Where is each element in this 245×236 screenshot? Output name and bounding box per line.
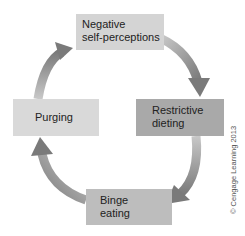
- arrow-purging-to-negative: [38, 42, 73, 99]
- node-label-line: Restrictive: [152, 104, 224, 117]
- arrow-binge-to-purging: [31, 137, 86, 200]
- copyright-credit: © Cengage Learning 2013: [229, 126, 238, 214]
- node-label-line: Binge: [100, 194, 172, 207]
- node-label-line: Negative: [82, 18, 164, 31]
- node-label-line: dieting: [152, 117, 224, 130]
- arrow-negative-to-restrictive: [160, 38, 210, 97]
- node-label-line: self-perceptions: [82, 31, 164, 44]
- node-restrictive-dieting: Restrictive dieting: [136, 99, 224, 136]
- node-negative-self-perceptions: Negative self-perceptions: [76, 14, 164, 50]
- node-label-line: eating: [100, 207, 172, 220]
- node-purging: Purging: [13, 99, 99, 136]
- node-label-line: Purging: [35, 111, 99, 124]
- node-binge-eating: Binge eating: [86, 189, 172, 225]
